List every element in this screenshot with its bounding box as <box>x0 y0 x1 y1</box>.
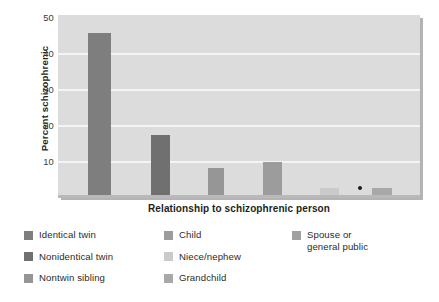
legend-item-label: Identical twin <box>39 229 96 241</box>
bar-identical-twin <box>88 33 111 197</box>
schizophrenia-risk-bar-chart: Percent schizophrenic 50 40 30 20 10 Rel… <box>0 0 439 302</box>
legend-swatch-icon <box>24 231 33 240</box>
legend-swatch-icon <box>164 231 173 240</box>
bars-layer <box>58 15 420 197</box>
legend-swatch-icon <box>292 231 301 240</box>
legend-swatch-icon <box>164 252 173 261</box>
bar-nontwin-sibling <box>208 168 224 197</box>
legend-column-2: ChildNiece/nephewGrandchild <box>164 229 294 294</box>
legend-item: Nonidentical twin <box>24 251 159 264</box>
legend-item-label: Child <box>179 229 201 241</box>
x-axis-title: Relationship to schizophrenic person <box>58 203 420 214</box>
legend-column-1: Identical twinNonidentical twinNontwin s… <box>24 229 159 294</box>
y-tick-30: 30 <box>28 85 54 95</box>
legend-swatch-icon <box>164 274 173 283</box>
x-axis-baseline <box>58 195 420 198</box>
legend-item-label: Nonidentical twin <box>39 251 113 263</box>
legend-item: Grandchild <box>164 272 294 285</box>
legend-item: Spouse or general public <box>292 229 422 242</box>
plot-area <box>58 15 420 197</box>
legend-item: Child <box>164 229 294 242</box>
y-tick-20: 20 <box>28 121 54 131</box>
dot-artifact <box>358 186 362 190</box>
legend-swatch-icon <box>24 274 33 283</box>
y-tick-10: 10 <box>28 157 54 167</box>
legend-item-label: Spouse or general public <box>307 229 368 252</box>
legend-item: Identical twin <box>24 229 159 242</box>
bar-child <box>263 162 282 197</box>
legend-item: Niece/nephew <box>164 251 294 264</box>
legend-column-3: Spouse or general public <box>292 229 422 251</box>
legend-swatch-icon <box>24 252 33 261</box>
y-axis-tick-labels: 50 40 30 20 10 <box>28 0 54 210</box>
legend-item-label: Niece/nephew <box>179 251 241 263</box>
legend-item-label: Nontwin sibling <box>39 272 105 284</box>
chart-legend: Identical twinNonidentical twinNontwin s… <box>24 229 424 297</box>
y-tick-40: 40 <box>28 49 54 59</box>
bar-nonidentical-twin <box>151 135 170 197</box>
legend-item-label: Grandchild <box>179 272 226 284</box>
legend-item: Nontwin sibling <box>24 272 159 285</box>
y-tick-50: 50 <box>28 13 54 23</box>
